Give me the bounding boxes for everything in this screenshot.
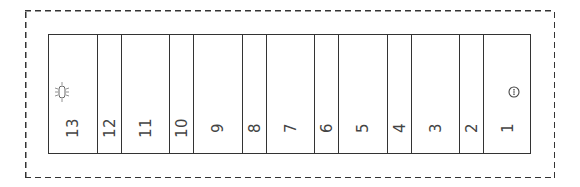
slot-10: 10 — [170, 35, 194, 153]
slot-label: 12 — [101, 118, 119, 138]
slot-4: 4 — [388, 35, 412, 153]
slot-11: 11 — [122, 35, 170, 153]
circle-indicator-icon — [508, 86, 520, 98]
slot-label: 8 — [246, 123, 264, 133]
slot-label: 2 — [463, 123, 481, 133]
slot-7: 7 — [267, 35, 315, 153]
slot-label: 4 — [391, 123, 409, 133]
slot-label: 1 — [499, 123, 517, 133]
slot-panel: 13 12 11 10 9 8 7 6 5 4 3 2 1 — [48, 34, 531, 154]
slot-1: 1 — [484, 35, 532, 153]
slot-2: 2 — [460, 35, 484, 153]
slot-9: 9 — [194, 35, 243, 153]
slot-13: 13 — [49, 35, 98, 153]
slot-label: 6 — [318, 123, 336, 133]
slot-12: 12 — [98, 35, 122, 153]
slot-8: 8 — [243, 35, 267, 153]
slot-label: 3 — [427, 123, 445, 133]
slot-label: 9 — [209, 123, 227, 133]
slot-label: 13 — [64, 118, 82, 138]
slot-5: 5 — [339, 35, 388, 153]
slot-label: 11 — [137, 118, 155, 138]
lamp-icon — [53, 82, 71, 102]
slot-6: 6 — [315, 35, 339, 153]
slot-label: 10 — [173, 118, 191, 138]
slot-label: 5 — [354, 123, 372, 133]
slot-3: 3 — [412, 35, 460, 153]
slot-label: 7 — [282, 123, 300, 133]
